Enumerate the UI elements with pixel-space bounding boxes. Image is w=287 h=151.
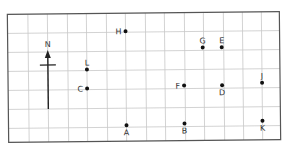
point-marker-icon xyxy=(260,119,264,123)
point-marker-icon xyxy=(124,123,128,127)
point-label: A xyxy=(124,128,130,137)
grid-horizontal-line xyxy=(8,88,280,91)
point-label: K xyxy=(260,124,266,133)
point-label: F xyxy=(175,82,180,91)
north-arrow-head-icon xyxy=(45,50,51,58)
point-marker-icon xyxy=(220,83,224,87)
point-label: J xyxy=(260,72,263,81)
point-marker-icon xyxy=(260,81,264,85)
north-arrow-shaft xyxy=(48,55,49,109)
grid-horizontal-line xyxy=(8,107,280,110)
map-point-j: J xyxy=(260,72,264,85)
grid-horizontal-line xyxy=(8,50,280,53)
point-label: H xyxy=(115,27,121,36)
point-label: B xyxy=(182,127,188,136)
map-point-l: L xyxy=(85,59,90,72)
map-point-e: E xyxy=(219,36,224,49)
point-marker-icon xyxy=(220,45,224,49)
map-point-g: G xyxy=(199,36,205,49)
grid-map: N HGELCFDJABK xyxy=(0,0,287,151)
map-point-k: K xyxy=(260,119,266,133)
point-label: G xyxy=(199,36,205,45)
point-label: D xyxy=(219,88,225,97)
point-label: L xyxy=(85,59,90,68)
map-point-f: F xyxy=(175,82,186,91)
point-label: C xyxy=(77,85,83,94)
grid-map-canvas: N HGELCFDJABK xyxy=(0,0,287,151)
grid-horizontal-line xyxy=(9,126,281,129)
north-label: N xyxy=(45,40,51,49)
point-label: E xyxy=(219,36,224,45)
map-point-a: A xyxy=(124,123,130,137)
map-point-b: B xyxy=(182,122,188,136)
grid-horizontal-line xyxy=(8,69,280,72)
grid-horizontal-line xyxy=(8,31,280,34)
points-layer: HGELCFDJABK xyxy=(77,26,266,138)
